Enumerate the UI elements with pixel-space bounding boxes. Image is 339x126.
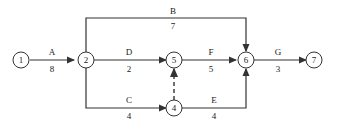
activity-d: D 2 [94,47,166,74]
node-2-label: 2 [84,55,89,65]
node-7: 7 [306,52,322,68]
node-6-label: 6 [244,55,249,65]
node-5-label: 5 [172,55,177,65]
activity-c-duration: 4 [127,111,132,121]
activity-c: C 4 [86,68,166,121]
activity-a-name: A [49,47,56,57]
activity-f: F 5 [182,47,236,74]
node-5: 5 [166,52,182,68]
activity-f-name: F [208,47,213,57]
activity-e-duration: 4 [212,111,217,121]
node-1-label: 1 [19,55,24,65]
activity-a: A 8 [30,47,74,74]
node-4-label: 4 [172,103,177,113]
node-2: 2 [78,52,94,68]
activity-g-name: G [275,47,282,57]
activity-g-duration: 3 [276,64,281,74]
activity-e: E 4 [182,69,246,121]
node-6: 6 [238,52,254,68]
activity-b-name: B [170,6,176,16]
activity-g: G 3 [254,47,306,74]
activity-d-duration: 2 [127,64,132,74]
activity-b-duration: 7 [171,21,176,31]
node-4: 4 [166,100,182,116]
activity-e-name: E [211,95,217,105]
activity-f-duration: 5 [209,64,214,74]
node-7-label: 7 [312,55,317,65]
node-1: 1 [13,52,29,68]
network-diagram: A 8 B 7 D 2 C 4 F 5 E 4 G 3 [0,0,339,126]
activity-b: B 7 [86,6,246,52]
activity-c-name: C [126,95,132,105]
activity-d-name: D [126,47,133,57]
activity-a-duration: 8 [50,64,55,74]
